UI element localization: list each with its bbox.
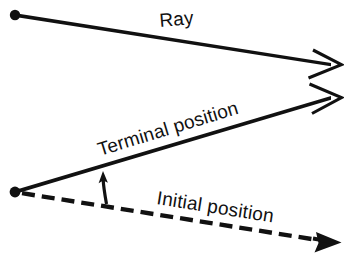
initial-position-label: Initial position [155, 187, 275, 226]
diagram-canvas: Ray Terminal position Initial position [0, 0, 344, 274]
terminal-position-shaft [15, 96, 331, 194]
ray-and-angle-diagram: Ray Terminal position Initial position [0, 0, 344, 274]
ray-label: Ray [159, 7, 195, 31]
angle-rotation-arrow-group [99, 171, 108, 204]
terminal-position-label: Terminal position [95, 97, 241, 160]
initial-position-label-group: Initial position [155, 187, 275, 226]
ray-label-group: Ray [159, 7, 195, 31]
terminal-position-group [10, 84, 342, 197]
angle-rotation-arrow-stem [103, 180, 106, 205]
terminal-position-label-group: Terminal position [95, 97, 241, 160]
